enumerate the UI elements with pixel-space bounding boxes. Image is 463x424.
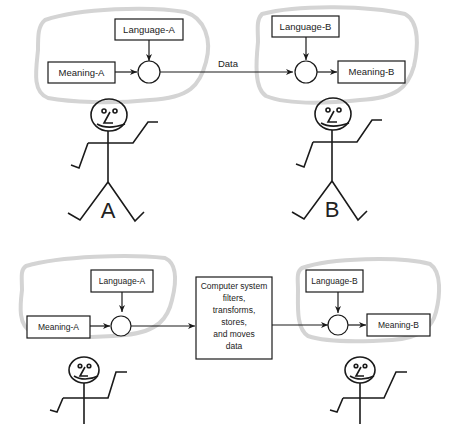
receiver-b-decoder-bottom: Language-B Meaning-B [306,270,430,336]
language-a-label: Language-A [123,24,175,35]
meaning-a-label: Meaning-A [59,67,106,78]
computer-line-2: filters, [223,293,246,303]
encoder-a-circle [138,61,160,83]
person-b-label: B [325,197,340,222]
receiver-b-decoder: Language-B Meaning-B [272,16,405,83]
language-b-label: Language-B [280,21,332,32]
bottom-panel: Language-A Meaning-A Computer system fil… [21,256,440,424]
stick-figure-b-bottom [330,357,407,424]
decoder-b-circle-bottom [328,315,348,335]
meaning-b-label-bottom: Meaning-B [378,320,419,330]
computer-line-6: data [226,341,243,351]
language-a-label-bottom: Language-A [99,276,146,286]
top-panel: Language-A Meaning-A Data Language-B Mea… [36,7,417,223]
person-a-label: A [101,198,116,223]
sender-a-encoder-bottom: Language-A Meaning-A [27,270,153,338]
computer-line-3: transforms, [213,305,256,315]
stick-figure-b: B [292,98,382,222]
computer-line-4: stores, [221,317,247,327]
data-label: Data [218,58,239,69]
language-b-label-bottom: Language-B [311,276,358,286]
computer-line-5: and moves [213,329,255,339]
computer-system-box: Computer system filters, transforms, sto… [196,277,272,359]
computer-line-1: Computer system [201,281,268,291]
stick-figure-a-bottom [50,357,127,424]
encoder-a-circle-bottom [111,316,131,336]
decoder-b-circle [295,61,317,83]
communication-diagram: Language-A Meaning-A Data Language-B Mea… [0,0,463,424]
sender-a-encoder: Language-A Meaning-A [48,19,183,83]
stick-figure-a: A [68,99,158,223]
meaning-a-label-bottom: Meaning-A [38,322,79,332]
meaning-b-label: Meaning-B [349,66,395,77]
